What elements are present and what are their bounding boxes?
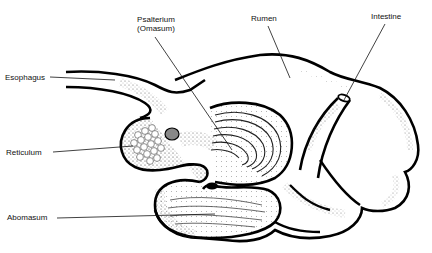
- label-psalterium-line1: Psalterium: [128, 15, 184, 24]
- label-reticulum: Reticulum: [6, 148, 42, 157]
- label-rumen: Rumen: [251, 14, 277, 23]
- reticulo-omasal-orifice: [165, 128, 179, 140]
- label-esophagus: Esophagus: [5, 73, 45, 82]
- label-psalterium: Psalterium (Omasum): [128, 15, 184, 33]
- label-psalterium-line2: (Omasum): [128, 24, 184, 33]
- leader-esophagus: [50, 77, 115, 80]
- stomach-diagram: [0, 0, 432, 253]
- abomasum-shape: [155, 180, 280, 238]
- label-intestine: Intestine: [371, 12, 401, 21]
- label-abomasum: Abomasum: [7, 213, 47, 222]
